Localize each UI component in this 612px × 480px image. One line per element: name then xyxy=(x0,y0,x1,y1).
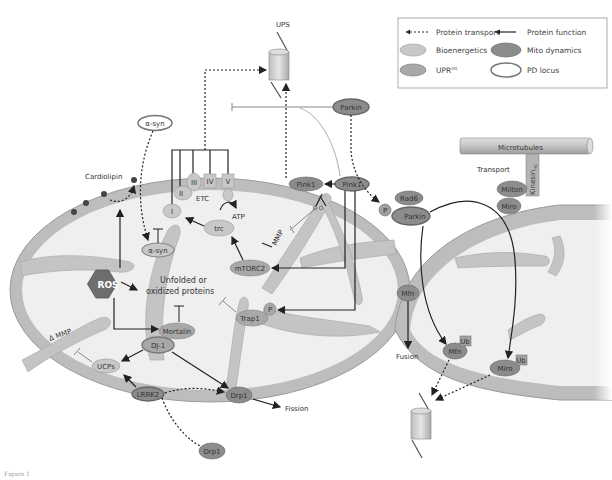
ups-proteasome-top: UPS xyxy=(269,21,290,98)
complex-5-label: V xyxy=(226,178,231,186)
legend-protein-transport: Protein transport xyxy=(436,28,499,37)
svg-text:P: P xyxy=(268,306,272,314)
svg-text:DJ-1: DJ-1 xyxy=(151,342,165,350)
svg-text:Pink1: Pink1 xyxy=(297,181,316,189)
svg-text:Rad6: Rad6 xyxy=(400,195,418,203)
svg-text:Parkin: Parkin xyxy=(340,104,362,112)
complex-4-label: IV xyxy=(207,178,214,186)
svg-text:Ub: Ub xyxy=(460,338,470,346)
mito-dynamics-swatch-icon xyxy=(491,43,521,57)
ups-proteasome-bottom xyxy=(411,393,431,458)
fission-label: Fission xyxy=(285,405,308,413)
complex-2-label: II xyxy=(179,190,183,198)
atp-label: ATP xyxy=(232,213,245,221)
svg-text:Mfn: Mfn xyxy=(402,290,415,298)
svg-text:Trap1: Trap1 xyxy=(239,315,259,323)
svg-text:P: P xyxy=(383,207,387,215)
cardiolipin-label: Cardiolipin xyxy=(85,173,122,181)
pd-locus-swatch-icon xyxy=(491,63,521,77)
svg-text:LRRK2: LRRK2 xyxy=(137,391,160,399)
unfolded-label-2: oxidized proteins xyxy=(146,287,214,296)
unfolded-label-1: Unfolded or xyxy=(160,276,207,285)
svg-text:α-syn: α-syn xyxy=(145,120,164,128)
transport-label: Transport xyxy=(476,166,510,174)
bioenergetics-swatch-icon xyxy=(400,44,426,56)
svg-text:Parkin: Parkin xyxy=(404,213,426,221)
pd-mitochondria-diagram: Protein transport Protein function Bioen… xyxy=(0,0,612,480)
svg-text:mTORC2: mTORC2 xyxy=(235,265,265,273)
complex-1-label: I xyxy=(171,208,173,216)
fusion-label: Fusion xyxy=(396,353,418,361)
proteasome-cylinder-icon xyxy=(411,411,431,439)
legend: Protein transport Protein function Bioen… xyxy=(398,18,607,88)
svg-text:Miro: Miro xyxy=(498,365,513,373)
svg-text:α-syn: α-syn xyxy=(148,247,167,255)
legend-bioenergetics: Bioenergetics xyxy=(436,46,487,55)
figure-caption: Figure 1 xyxy=(4,470,30,478)
uprmt-swatch-icon xyxy=(400,64,426,76)
proteasome-cylinder-icon xyxy=(269,52,289,80)
svg-text:Drp1: Drp1 xyxy=(230,392,247,400)
svg-text:trc: trc xyxy=(214,225,223,233)
svg-text:Milton: Milton xyxy=(501,186,522,194)
ups-label: UPS xyxy=(276,21,290,29)
etc-label: ETC xyxy=(196,195,209,203)
legend-mito-dynamics: Mito dynamics xyxy=(527,46,582,55)
svg-text:Pink1: Pink1 xyxy=(343,181,362,189)
svg-text:Miro: Miro xyxy=(502,203,517,211)
legend-protein-function: Protein function xyxy=(527,28,587,37)
complex-3-label: III xyxy=(191,179,197,187)
svg-text:Mfn: Mfn xyxy=(449,348,462,356)
svg-text:ROS: ROS xyxy=(97,280,118,290)
svg-text:Drp1: Drp1 xyxy=(203,448,220,456)
microtubules-label: Microtubules xyxy=(498,144,543,152)
svg-text:Ub: Ub xyxy=(516,357,526,365)
legend-pd-locus: PD locus xyxy=(527,66,559,75)
svg-text:UCPs: UCPs xyxy=(97,363,115,371)
svg-text:Mortalin: Mortalin xyxy=(163,328,192,336)
